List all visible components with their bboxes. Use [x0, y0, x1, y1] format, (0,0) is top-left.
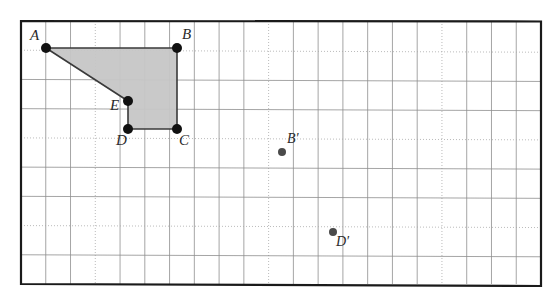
point-marker-b	[172, 43, 182, 53]
point-marker-a	[41, 43, 51, 53]
grid-line-horizontal	[21, 109, 541, 111]
point-marker-bp	[278, 148, 286, 156]
point-label-dp: D′	[336, 235, 349, 249]
grid-line-horizontal	[21, 138, 541, 140]
point-label-b: B	[182, 27, 191, 42]
grid-line-horizontal	[21, 167, 541, 169]
grid-line-horizontal	[21, 255, 541, 257]
point-marker-e	[123, 96, 133, 106]
point-label-bp: B′	[287, 132, 299, 146]
point-label-d: D	[116, 133, 127, 148]
point-label-e: E	[110, 98, 119, 113]
point-label-a: A	[30, 28, 39, 43]
shape-layer	[46, 48, 177, 129]
shaded-polygon-abcde	[46, 48, 177, 129]
point-label-c: C	[179, 133, 189, 148]
grid-line-horizontal	[21, 226, 541, 228]
grid-line-horizontal	[21, 196, 541, 198]
geometry-figure: ABCDEB′D′	[0, 0, 558, 305]
figure-canvas	[0, 0, 558, 305]
